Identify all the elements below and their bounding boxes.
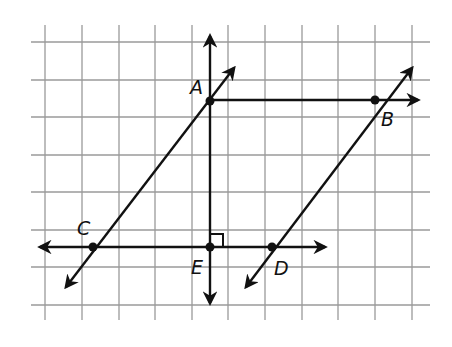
point-a <box>206 97 215 106</box>
point-label-e: E <box>191 258 203 277</box>
point-b <box>371 96 380 105</box>
points <box>89 96 380 252</box>
point-d <box>268 243 277 252</box>
lines <box>40 36 418 303</box>
point-e <box>206 243 215 252</box>
diagram-canvas <box>0 0 452 347</box>
grid <box>31 25 430 320</box>
point-label-b: B <box>381 110 394 129</box>
point-label-c: C <box>77 219 90 238</box>
point-c <box>89 243 98 252</box>
geometry-diagram: A B C D E <box>0 0 452 347</box>
point-label-d: D <box>274 259 289 278</box>
point-label-a: A <box>190 78 203 97</box>
